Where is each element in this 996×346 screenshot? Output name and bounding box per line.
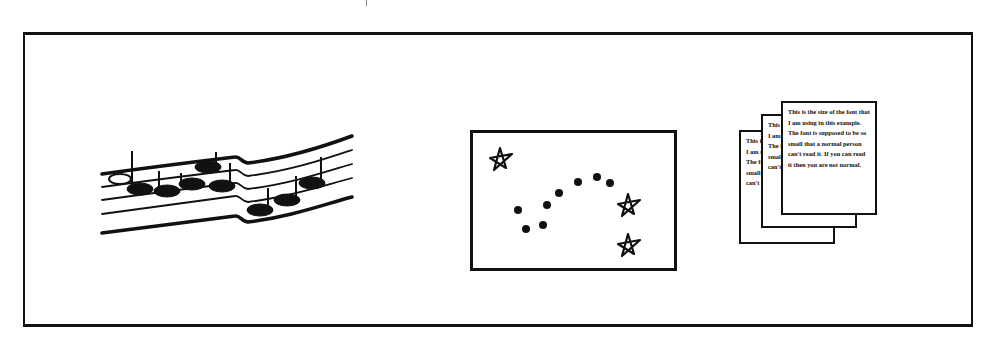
document-page-front: This is the size of the font that I am u…	[781, 101, 877, 215]
star-map-icon	[470, 130, 678, 272]
front-page-text: This is the size of the font that I am u…	[788, 107, 870, 170]
top-tick-mark	[366, 0, 367, 6]
music-staff-icon	[100, 130, 360, 240]
